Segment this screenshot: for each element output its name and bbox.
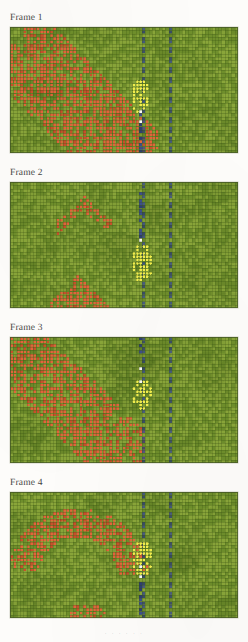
grid-canvas bbox=[10, 337, 238, 463]
simulation-grid[interactable] bbox=[10, 182, 238, 308]
simulation-grid[interactable] bbox=[10, 337, 238, 463]
grid-canvas bbox=[10, 492, 238, 618]
bottom-caption-fragment: · · · · · · bbox=[0, 630, 248, 638]
simulation-grid[interactable] bbox=[10, 492, 238, 618]
frame-label: Frame 1 bbox=[10, 13, 43, 23]
figure-sheet: Frame 1 Frame 2 Frame 3 Frame 4 · · · · … bbox=[0, 0, 248, 642]
frame-label: Frame 3 bbox=[10, 323, 43, 333]
simulation-grid[interactable] bbox=[10, 27, 238, 153]
frame-label: Frame 2 bbox=[10, 168, 43, 178]
grid-canvas bbox=[10, 182, 238, 308]
frame-label: Frame 4 bbox=[10, 478, 43, 488]
grid-canvas bbox=[10, 27, 238, 153]
